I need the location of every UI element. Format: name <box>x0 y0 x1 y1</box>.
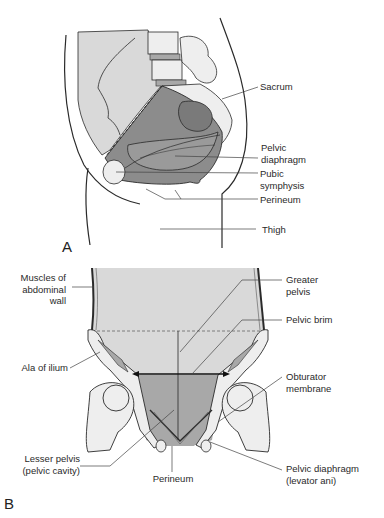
label-pelvic-diaphragm-b-line1: Pelvic diaphragm <box>286 463 359 475</box>
label-pelvic-diaphragm-line1: Pelvic <box>261 142 306 154</box>
label-pubic-symphysis-line2: symphysis <box>260 180 304 192</box>
ischium-right <box>201 440 211 452</box>
label-greater-pelvis: Greater pelvis <box>286 274 318 297</box>
panel-letter-a: A <box>62 238 72 255</box>
label-muscles-line3: wall <box>4 295 66 307</box>
label-muscles-abdominal-wall: Muscles of abdominal wall <box>4 272 66 307</box>
label-pelvic-diaphragm-b: Pelvic diaphragm (levator ani) <box>286 463 359 486</box>
label-pubic-symphysis-line1: Pubic <box>260 168 304 180</box>
label-obturator-line1: Obturator <box>286 371 331 383</box>
label-muscles-line1: Muscles of <box>4 272 66 284</box>
label-ala-of-ilium: Ala of ilium <box>4 362 68 374</box>
label-thigh: Thigh <box>262 224 286 236</box>
label-greater-pelvis-line1: Greater <box>286 274 318 286</box>
label-sacrum: Sacrum <box>260 81 293 93</box>
panel-a-illustration <box>0 0 384 518</box>
label-muscles-line2: abdominal <box>4 284 66 296</box>
panel-letter-b: B <box>4 495 14 512</box>
label-greater-pelvis-line2: pelvis <box>286 286 318 298</box>
leader-ala-of-ilium <box>70 352 100 368</box>
label-obturator-membrane: Obturator membrane <box>286 371 331 394</box>
ischium-left <box>156 440 166 452</box>
label-lesser-pelvis-line1: Lesser pelvis <box>4 453 80 465</box>
label-perineum-b: Perineum <box>148 473 198 485</box>
label-pelvic-brim: Pelvic brim <box>286 314 332 326</box>
label-pelvic-diaphragm: Pelvic diaphragm <box>261 142 306 165</box>
label-perineum-a: Perineum <box>260 194 301 206</box>
label-lesser-pelvis: Lesser pelvis (pelvic cavity) <box>4 453 80 476</box>
label-lesser-pelvis-line2: (pelvic cavity) <box>4 465 80 477</box>
vertebra-l5 <box>152 60 182 80</box>
thigh-outline-front <box>86 168 90 245</box>
label-obturator-line2: membrane <box>286 383 331 395</box>
vertebra-l4 <box>148 32 178 54</box>
spinous-processes <box>180 36 217 83</box>
label-pelvic-diaphragm-line2: diaphragm <box>261 154 306 166</box>
disc-1 <box>150 54 180 60</box>
label-pelvic-diaphragm-b-line2: (levator ani) <box>286 475 359 487</box>
leader-sacrum <box>222 87 258 99</box>
abdominal-wall-left <box>92 268 94 330</box>
label-pubic-symphysis: Pubic symphysis <box>260 168 304 191</box>
